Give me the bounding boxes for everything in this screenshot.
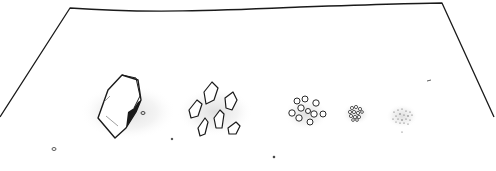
small-pebbles	[284, 96, 328, 130]
single-large-rock	[80, 75, 176, 140]
tiny-granules	[342, 103, 370, 125]
drawing-canvas	[0, 0, 496, 171]
fine-dust	[386, 104, 418, 133]
medium-fragments	[177, 82, 253, 136]
